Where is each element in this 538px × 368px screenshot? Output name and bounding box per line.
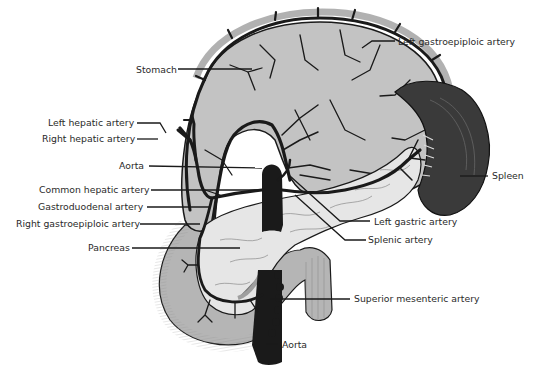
svg-text:Left gastroepiploic artery: Left gastroepiploic artery — [398, 36, 516, 47]
svg-text:Gastroduodenal artery: Gastroduodenal artery — [38, 201, 144, 212]
svg-text:Right hepatic artery: Right hepatic artery — [42, 133, 136, 144]
svg-text:Superior mesenteric artery: Superior mesenteric artery — [354, 293, 480, 304]
anatomy-diagram: Stomach Left gastroepiploic artery Left … — [0, 0, 538, 368]
svg-text:Splenic artery: Splenic artery — [368, 234, 433, 245]
label-left-hepatic-artery: Left hepatic artery — [48, 117, 166, 133]
label-right-hepatic-artery: Right hepatic artery — [42, 133, 158, 144]
svg-text:Pancreas: Pancreas — [88, 242, 130, 253]
svg-text:Aorta: Aorta — [282, 339, 307, 350]
svg-text:Left hepatic artery: Left hepatic artery — [48, 117, 135, 128]
svg-text:Stomach: Stomach — [136, 64, 177, 75]
svg-text:Aorta: Aorta — [119, 160, 144, 171]
svg-text:Left gastric artery: Left gastric artery — [374, 216, 458, 227]
label-superior-mesenteric-artery: Superior mesenteric artery — [270, 293, 480, 304]
label-right-gastroepiploic-artery: Right gastroepiploic artery — [16, 218, 200, 229]
svg-text:Common hepatic artery: Common hepatic artery — [39, 184, 150, 195]
svg-text:Spleen: Spleen — [492, 170, 524, 181]
svg-text:Right gastroepiploic artery: Right gastroepiploic artery — [16, 218, 141, 229]
